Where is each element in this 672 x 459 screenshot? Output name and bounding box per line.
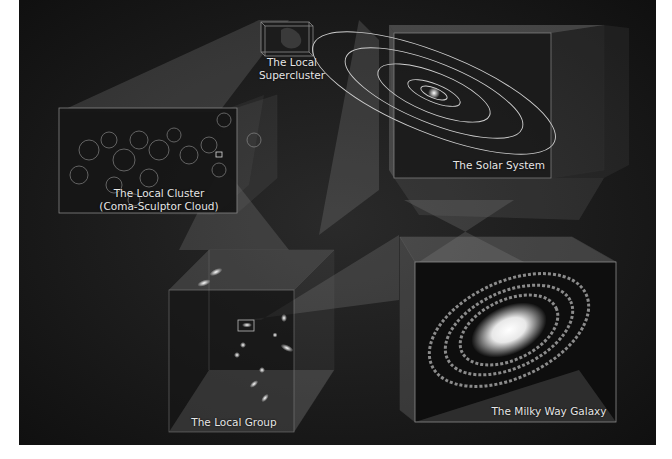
diagram-graphics [19,0,656,445]
label-milky-way: The Milky Way Galaxy [479,405,619,418]
label-solar-system: The Solar System [439,159,559,172]
milky-way-box [400,237,616,422]
label-local-group: The Local Group [179,416,289,429]
cosmic-scale-diagram: The Local Supercluster The Local Cluster… [19,0,656,445]
local-group-box [169,250,334,432]
label-local-cluster: The Local Cluster (Coma-Sculptor Cloud) [79,187,239,213]
label-local-supercluster: The Local Supercluster [257,56,327,82]
local-supercluster-box [261,22,313,56]
